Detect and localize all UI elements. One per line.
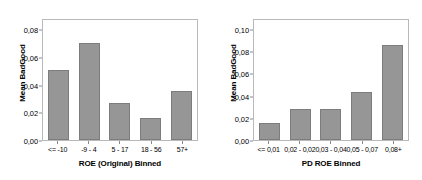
bar-slot	[43, 20, 74, 140]
x-tick-mark	[151, 141, 152, 144]
y-tick-label: 0,04	[24, 81, 38, 90]
x-tick-mark	[362, 141, 363, 144]
x-tick-label: <= -10	[42, 146, 73, 158]
y-tick-label: 0,00	[235, 137, 249, 146]
x-tick-mark	[393, 141, 394, 144]
x-tick-label: 0,08+	[378, 146, 409, 158]
y-tick-label: 0,02	[24, 109, 38, 118]
x-tick-label: -9 - 4	[73, 146, 104, 158]
bar[interactable]	[79, 43, 100, 140]
x-tick-label: 0,03 - 0,04	[315, 146, 346, 158]
chart-panel-pd-roe: Mean BadGood 0,00 0,02 0,04 0,06 0,08 0,…	[211, 0, 422, 180]
bar[interactable]	[140, 118, 161, 140]
x-axis-title: PD ROE Binned	[241, 159, 421, 168]
bar[interactable]	[320, 109, 341, 140]
x-tick-slot	[136, 141, 167, 145]
x-tick-label: <= 0,01	[253, 146, 284, 158]
x-tick-slot	[253, 141, 284, 145]
x-tick-mark	[88, 141, 89, 144]
y-tick-label: 0,02	[235, 114, 249, 123]
x-tick-slot	[347, 141, 378, 145]
y-tick-label: 0,00	[24, 137, 38, 146]
x-tick-slot	[167, 141, 198, 145]
x-tick-label: 0,05 - 0,07	[347, 146, 378, 158]
y-tick-label: 0,04	[235, 92, 249, 101]
bar-slot	[105, 20, 136, 140]
bar[interactable]	[109, 103, 130, 140]
bar-slot	[74, 20, 105, 140]
x-tick-label: 0,02 - 0,02	[284, 146, 315, 158]
x-tick-mark	[330, 141, 331, 144]
x-axis-tick-labels: <= -10 -9 - 4 5 - 17 18 - 56 57+	[42, 146, 198, 158]
bar[interactable]	[171, 91, 192, 140]
y-tick-label: 0,08	[235, 48, 249, 57]
x-tick-slot	[42, 141, 73, 145]
x-tick-slot	[378, 141, 409, 145]
bar-slot	[135, 20, 166, 140]
bar-slot	[316, 20, 347, 140]
plot-area	[253, 19, 409, 141]
x-tick-mark	[299, 141, 300, 144]
x-tick-label: 57+	[167, 146, 198, 158]
bar-slot	[166, 20, 197, 140]
plot-area	[42, 19, 198, 141]
y-tick-label: 0,06	[24, 53, 38, 62]
y-axis-tick-labels: 0,00 0,02 0,04 0,06 0,08	[14, 19, 38, 141]
x-axis-tick-labels: <= 0,01 0,02 - 0,02 0,03 - 0,04 0,05 - 0…	[253, 146, 409, 158]
bar[interactable]	[351, 92, 372, 140]
y-tick-label: 0,08	[24, 26, 38, 35]
x-axis-ticks	[42, 141, 198, 145]
chart-panel-roe-original: Mean BadGood 0,00 0,02 0,04 0,06 0,08	[0, 0, 211, 180]
x-tick-label: 18 - 56	[136, 146, 167, 158]
x-tick-mark	[57, 141, 58, 144]
y-tick-label: 0,10	[235, 26, 249, 35]
bar[interactable]	[290, 109, 311, 140]
x-axis-title: ROE (Original) Binned	[30, 159, 210, 168]
y-axis-tick-labels: 0,00 0,02 0,04 0,06 0,08 0,10	[225, 19, 249, 141]
bar-slot	[254, 20, 285, 140]
x-tick-slot	[104, 141, 135, 145]
bar[interactable]	[259, 123, 280, 140]
bar-series	[43, 20, 197, 140]
x-axis-ticks	[253, 141, 409, 145]
bar[interactable]	[48, 70, 69, 140]
x-tick-slot	[315, 141, 346, 145]
bar[interactable]	[382, 45, 403, 140]
bar-series	[254, 20, 408, 140]
figure: Mean BadGood 0,00 0,02 0,04 0,06 0,08	[0, 0, 422, 180]
bar-slot	[377, 20, 408, 140]
x-tick-mark	[119, 141, 120, 144]
x-tick-mark	[268, 141, 269, 144]
bar-slot	[285, 20, 316, 140]
x-tick-slot	[73, 141, 104, 145]
y-tick-label: 0,06	[235, 70, 249, 79]
x-tick-mark	[182, 141, 183, 144]
x-tick-slot	[284, 141, 315, 145]
bar-slot	[346, 20, 377, 140]
x-tick-label: 5 - 17	[104, 146, 135, 158]
